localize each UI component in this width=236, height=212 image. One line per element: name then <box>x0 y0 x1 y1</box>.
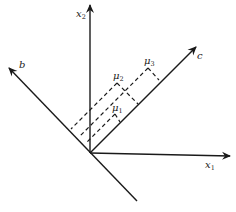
mu3-label: μ3 <box>144 55 155 68</box>
mu2-label: μ2 <box>113 70 124 83</box>
mu1-projection-to-c <box>115 114 120 122</box>
x1-axis <box>90 153 230 156</box>
c-label: c <box>197 50 203 61</box>
x2-label: x2 <box>76 8 86 21</box>
b-axis <box>9 68 137 201</box>
x1-label: x1 <box>205 159 215 172</box>
mu2-projection-to-c <box>117 83 138 104</box>
mu3-projection-to-c <box>148 68 159 80</box>
c-axis <box>90 47 196 153</box>
projection-diagram: x2 x1 b c μ1 μ2 μ3 <box>0 0 236 212</box>
b-label: b <box>19 59 25 70</box>
mu1-label: μ1 <box>112 102 123 115</box>
mu2-projection-to-b <box>71 83 117 129</box>
